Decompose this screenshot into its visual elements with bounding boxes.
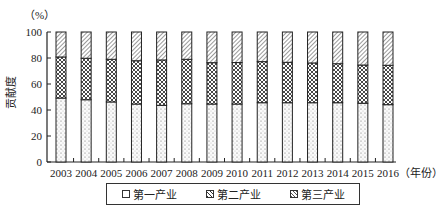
legend-label: 第一产业 bbox=[133, 186, 177, 202]
bar-2009 bbox=[207, 32, 217, 162]
bar-2014 bbox=[333, 32, 343, 162]
axes bbox=[47, 32, 396, 162]
legend: 第一产业 第二产业 第三产业 bbox=[106, 183, 360, 205]
bar-2003 bbox=[56, 32, 66, 162]
y-tick-label: 40 bbox=[31, 104, 43, 116]
bar-segment bbox=[131, 61, 141, 104]
bar-segment bbox=[81, 58, 91, 99]
x-tick-label: 2009 bbox=[201, 167, 224, 179]
bar-2016 bbox=[383, 32, 393, 162]
bar-segment bbox=[207, 32, 217, 63]
x-tick-label: 2016 bbox=[377, 167, 400, 179]
bar-segment bbox=[182, 32, 192, 59]
bar-2015 bbox=[358, 32, 368, 162]
x-tick-label: 2006 bbox=[125, 167, 148, 179]
x-tick-label: 2007 bbox=[151, 167, 174, 179]
bar-segment bbox=[81, 32, 91, 58]
x-tick-label: 2011 bbox=[251, 167, 273, 179]
bar-segment bbox=[182, 59, 192, 103]
bar-2004 bbox=[81, 32, 91, 162]
bar-segment bbox=[182, 104, 192, 162]
x-tick-label: 2005 bbox=[100, 167, 123, 179]
y-tick-label: 80 bbox=[31, 52, 43, 64]
x-axis-title: （年份） bbox=[399, 166, 443, 179]
bar-2010 bbox=[232, 32, 242, 162]
stacked-bar-chart: 020406080100（%）贡献度2003200420052006200720… bbox=[0, 0, 446, 213]
bar-segment bbox=[358, 32, 368, 65]
bar-segment bbox=[308, 32, 318, 63]
bar-segment bbox=[282, 62, 292, 102]
bar-segment bbox=[257, 32, 267, 62]
y-tick-label: 100 bbox=[26, 26, 43, 38]
y-tick-label: 60 bbox=[31, 78, 43, 90]
bar-segment bbox=[257, 62, 267, 103]
bar-segment bbox=[232, 63, 242, 104]
x-tick-label: 2003 bbox=[50, 167, 73, 179]
bar-2006 bbox=[131, 32, 141, 162]
bar-2005 bbox=[106, 32, 116, 162]
bar-segment bbox=[282, 32, 292, 62]
bar-segment bbox=[56, 32, 66, 57]
bar-segment bbox=[383, 105, 393, 162]
axis-labels: 020406080100（%）贡献度2003200420052006200720… bbox=[4, 9, 443, 179]
bar-segment bbox=[106, 102, 116, 162]
bar-2008 bbox=[182, 32, 192, 162]
bar-segment bbox=[333, 32, 343, 64]
x-tick-label: 2008 bbox=[176, 167, 199, 179]
bar-segment bbox=[157, 32, 167, 60]
bar-segment bbox=[383, 65, 393, 104]
bar-segment bbox=[207, 104, 217, 162]
legend-swatch-crosshatch-icon bbox=[206, 190, 214, 198]
legend-label: 第二产业 bbox=[217, 186, 261, 202]
x-tick-label: 2012 bbox=[276, 167, 298, 179]
bar-segment bbox=[56, 57, 66, 98]
bar-segment bbox=[131, 32, 141, 61]
y-tick-label: 0 bbox=[37, 156, 43, 168]
bar-2007 bbox=[157, 32, 167, 162]
x-tick-label: 2013 bbox=[302, 167, 325, 179]
bar-2013 bbox=[308, 32, 318, 162]
bar-segment bbox=[333, 64, 343, 103]
bar-2011 bbox=[257, 32, 267, 162]
bar-segment bbox=[308, 63, 318, 103]
bar-segment bbox=[358, 103, 368, 162]
legend-swatch-dots-icon bbox=[122, 190, 130, 198]
bar-segment bbox=[157, 60, 167, 105]
bar-segment bbox=[81, 100, 91, 162]
x-tick-label: 2004 bbox=[75, 167, 98, 179]
x-tick-label: 2014 bbox=[327, 167, 350, 179]
bar-2012 bbox=[282, 32, 292, 162]
bar-segment bbox=[232, 104, 242, 162]
bar-segment bbox=[56, 98, 66, 162]
bar-segment bbox=[106, 59, 116, 102]
legend-item-primary: 第一产业 bbox=[122, 186, 177, 202]
legend-swatch-diagonal-icon bbox=[290, 190, 298, 198]
bar-segment bbox=[308, 103, 318, 162]
x-tick-label: 2015 bbox=[352, 167, 375, 179]
bar-segment bbox=[358, 65, 368, 103]
y-unit-label: （%） bbox=[24, 9, 55, 21]
bar-segment bbox=[383, 32, 393, 65]
bar-segment bbox=[232, 32, 242, 63]
bar-segment bbox=[131, 104, 141, 162]
bar-segment bbox=[333, 103, 343, 162]
bar-segment bbox=[106, 32, 116, 59]
x-tick-label: 2010 bbox=[226, 167, 249, 179]
bar-segment bbox=[207, 63, 217, 104]
legend-label: 第三产业 bbox=[301, 186, 345, 202]
bar-segment bbox=[282, 103, 292, 162]
bar-segment bbox=[257, 103, 267, 162]
y-tick-label: 20 bbox=[31, 130, 43, 142]
legend-item-tertiary: 第三产业 bbox=[290, 186, 345, 202]
bar-segment bbox=[157, 105, 167, 162]
bars bbox=[56, 32, 393, 162]
y-axis-title: 贡献度 bbox=[4, 76, 17, 109]
legend-item-secondary: 第二产业 bbox=[206, 186, 261, 202]
